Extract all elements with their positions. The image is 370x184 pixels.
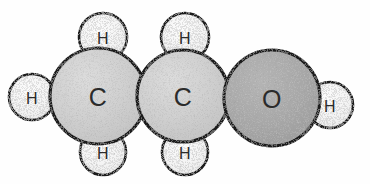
- molecule-canvas: HCHHCHHOH: [0, 0, 370, 184]
- molecule-diagram: HCHHCHHOH: [0, 0, 370, 184]
- atom-label-h-bottom-left: H: [97, 145, 109, 162]
- atom-label-h-top-middle: H: [179, 30, 191, 47]
- atom-label-h-top-left: H: [97, 30, 109, 47]
- atom-label-h-right: H: [324, 98, 336, 115]
- atom-label-carbon-1: C: [89, 83, 108, 111]
- atom-label-carbon-2: C: [174, 83, 193, 111]
- atom-label-h-left: H: [26, 90, 38, 107]
- atom-label-h-bottom-middle: H: [179, 145, 191, 162]
- atom-label-oxygen: O: [262, 85, 282, 113]
